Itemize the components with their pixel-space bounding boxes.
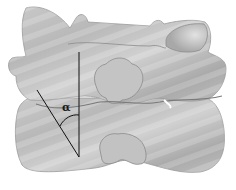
vertebrae-figure: α [0,0,236,190]
alpha-angle-label: α [62,101,71,114]
lower-vertebra [15,98,224,172]
vertebrae-illustration: α [0,0,236,190]
upper-vertebra [9,7,226,104]
